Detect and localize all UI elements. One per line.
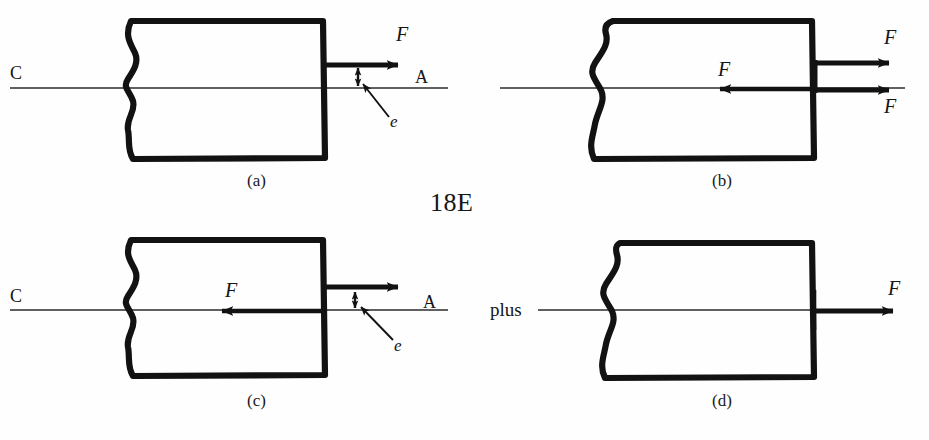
- figure-center-label: 18E: [430, 190, 473, 216]
- panel-c-left-axis-label: C: [10, 287, 22, 305]
- panel-d-force-label: F: [888, 278, 900, 298]
- panel-a-right-axis-label: A: [415, 68, 428, 86]
- panel-c-caption: (c): [247, 392, 266, 409]
- figure-canvas: C A F e (a) F F F (b) 18E C A F e (c) pl…: [0, 0, 929, 440]
- panel-c-body-outline: [126, 240, 325, 376]
- panel-b-caption: (b): [712, 172, 732, 189]
- panel-c-eccentricity-leader: [361, 307, 393, 340]
- panel-d-left-axis-label: plus: [490, 300, 522, 319]
- panel-a-eccentricity-leader: [363, 84, 389, 117]
- panel-b-force-label-upper: F: [884, 27, 896, 47]
- diagram-vector-layer: [0, 0, 929, 440]
- panel-a-body-outline: [126, 21, 325, 159]
- panel-c-graphics: [10, 240, 448, 376]
- panel-a-left-axis-label: C: [10, 64, 22, 82]
- panel-a-caption: (a): [247, 172, 266, 189]
- panel-d-graphics: [538, 243, 893, 378]
- panel-b-force-label-axis: F: [884, 96, 896, 116]
- panel-c-eccentricity-label: e: [394, 337, 402, 354]
- panel-c-force-label-upper: F: [225, 280, 237, 300]
- panel-d-caption: (d): [712, 392, 732, 409]
- panel-a-graphics: [10, 21, 448, 159]
- panel-c-right-axis-label: A: [423, 293, 436, 311]
- panel-a-force-label: F: [396, 24, 408, 44]
- panel-a-eccentricity-label: e: [390, 113, 398, 130]
- panel-b-graphics: [500, 21, 905, 159]
- panel-b-force-label-left: F: [718, 59, 730, 79]
